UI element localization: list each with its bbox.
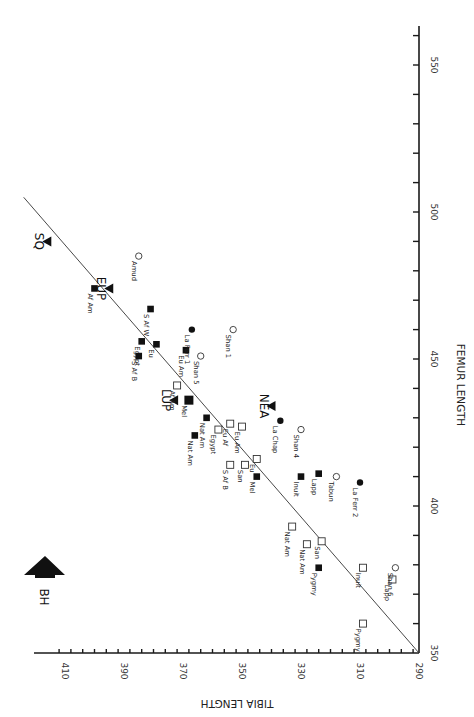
point-label: Af Am bbox=[168, 390, 176, 411]
point-label: Nat Am bbox=[186, 440, 194, 466]
femur-tibia-scatter-chart: 350400450500550290310330350370390410 SQE… bbox=[0, 0, 474, 717]
bh-label: BH bbox=[37, 588, 51, 605]
point-label: Eu Af bbox=[221, 429, 229, 447]
point-label: Shan 1 bbox=[224, 335, 232, 359]
open-square-marker bbox=[359, 564, 366, 571]
point-label: Pygmy bbox=[354, 629, 362, 652]
point-label: Inuit bbox=[292, 482, 300, 498]
femur-tick-label: 500 bbox=[429, 203, 439, 220]
point-label: Nat Am bbox=[198, 423, 206, 449]
open-square-marker bbox=[227, 461, 234, 468]
tibia-tick-label: 350 bbox=[237, 662, 247, 679]
data-point: Inuit bbox=[292, 473, 304, 497]
data-point: Pygmy bbox=[354, 620, 367, 652]
point-label: Mel bbox=[248, 482, 256, 494]
open-square-marker bbox=[303, 541, 310, 548]
data-point: Shan 1 bbox=[224, 326, 236, 358]
data-point: S Af B bbox=[130, 353, 142, 382]
data-point: NEA bbox=[257, 394, 276, 420]
data-point: Shan 6 bbox=[386, 565, 398, 597]
open-circle-marker bbox=[298, 426, 304, 432]
open-square-marker bbox=[215, 426, 222, 433]
data-point: S Af B bbox=[221, 461, 234, 490]
tibia-tick-label: 310 bbox=[355, 662, 365, 679]
point-label: S Af B bbox=[221, 470, 229, 490]
filled-square-marker bbox=[147, 306, 154, 313]
open-circle-marker bbox=[198, 353, 204, 359]
point-label: Inuit bbox=[354, 573, 362, 589]
y-axis-title: TIBIA LENGTH bbox=[201, 698, 275, 710]
point-label: San bbox=[313, 546, 321, 559]
filled-square-marker bbox=[184, 396, 193, 405]
point-label: Eu bbox=[147, 349, 155, 358]
femur-tick-label: 400 bbox=[429, 497, 439, 514]
point-label: Nat Am bbox=[298, 549, 306, 575]
open-square-marker bbox=[318, 538, 325, 545]
tibia-tick-label: 390 bbox=[119, 662, 129, 679]
data-point: Nat Am bbox=[198, 415, 210, 449]
data-point: Shan 4 bbox=[292, 426, 304, 458]
data-point: Pygmy bbox=[310, 564, 322, 595]
data-point: Eu Am bbox=[233, 423, 246, 454]
data-point: La Ferr 2 bbox=[351, 479, 363, 517]
open-square-marker bbox=[227, 420, 234, 427]
axes: 350400450500550290310330350370390410 bbox=[34, 26, 439, 680]
open-square-marker bbox=[253, 455, 260, 462]
data-point: Mel bbox=[248, 473, 260, 493]
open-square-marker bbox=[174, 382, 181, 389]
point-label: S Af W bbox=[142, 314, 150, 336]
point-label: Af Am bbox=[86, 293, 94, 314]
point-label: S Af B bbox=[130, 361, 138, 381]
open-square-marker bbox=[289, 523, 296, 530]
filled-square-marker bbox=[253, 473, 260, 480]
filled-square-marker bbox=[153, 341, 160, 348]
data-point: Shan 5 bbox=[192, 353, 204, 385]
data-point: San bbox=[236, 461, 249, 482]
tibia-tick-label: 370 bbox=[178, 662, 188, 679]
femur-tick-label: 450 bbox=[429, 350, 439, 367]
filled-circle-marker bbox=[189, 326, 195, 332]
open-circle-marker bbox=[333, 473, 339, 479]
point-label: Mel bbox=[180, 405, 188, 417]
point-label: Shan 4 bbox=[292, 435, 300, 459]
filled-square-marker bbox=[298, 473, 305, 480]
data-point: San bbox=[313, 538, 326, 559]
open-circle-marker bbox=[136, 253, 142, 259]
data-point: Amud bbox=[130, 253, 142, 281]
data-point: Eu Af bbox=[221, 420, 234, 447]
filled-square-marker bbox=[135, 353, 142, 360]
point-label: NEA bbox=[257, 394, 271, 420]
filled-circle-marker bbox=[277, 418, 283, 424]
tibia-tick-label: 330 bbox=[296, 662, 306, 679]
femur-tick-label: 350 bbox=[429, 644, 439, 661]
filled-square-marker bbox=[315, 564, 322, 571]
data-point: S Af W bbox=[142, 306, 154, 337]
open-square-marker bbox=[241, 461, 248, 468]
data-point: Af Am bbox=[168, 382, 181, 411]
open-square-marker bbox=[239, 423, 246, 430]
annotations: BH bbox=[24, 556, 65, 606]
point-label: Pygmy bbox=[310, 573, 318, 596]
filled-square-marker bbox=[91, 285, 98, 292]
data-point: SQ bbox=[32, 233, 51, 250]
filled-square-marker bbox=[138, 338, 145, 345]
point-label: SQ bbox=[32, 233, 46, 250]
x-axis-title: FEMUR LENGTH bbox=[455, 344, 467, 426]
data-point: Tabun bbox=[327, 473, 339, 501]
point-label: Egypt bbox=[209, 435, 217, 455]
data-point: Mel bbox=[180, 396, 194, 418]
point-label: La Ferr 1 bbox=[183, 335, 191, 365]
data-point: Nat Am bbox=[283, 523, 296, 557]
point-label: Shan 6 bbox=[386, 573, 394, 597]
filled-square-marker bbox=[203, 415, 210, 422]
point-label: Nat Am bbox=[283, 532, 291, 558]
point-label: Tabun bbox=[327, 481, 335, 502]
data-points: SQEUPLUPNEAAf AmS Af WEgyptEuS Af BEu Am… bbox=[32, 233, 398, 652]
point-label: La Ferr 2 bbox=[351, 487, 359, 517]
open-circle-marker bbox=[230, 326, 236, 332]
arrow-up-icon bbox=[24, 556, 65, 578]
data-point: Nat Am bbox=[298, 541, 311, 575]
tibia-tick-label: 410 bbox=[60, 662, 70, 679]
data-point: Egypt bbox=[209, 426, 222, 454]
point-label: Eu bbox=[248, 464, 256, 473]
